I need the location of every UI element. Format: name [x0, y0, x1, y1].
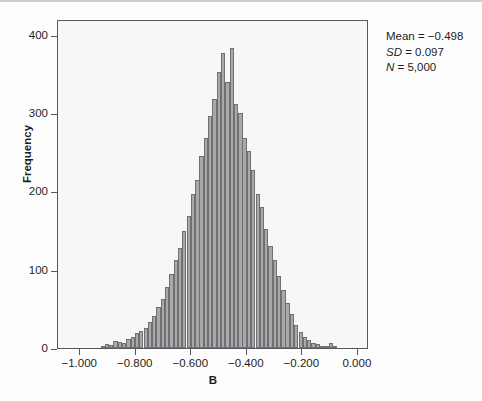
x-axis-tick-mark	[190, 349, 191, 355]
x-axis-tick-mark	[301, 349, 302, 355]
y-axis-tick-label: 100	[29, 265, 48, 276]
x-axis-tick-mark	[246, 349, 247, 355]
x-axis-tick-label: 0.000	[322, 357, 392, 369]
y-axis-tick-mark	[51, 36, 57, 37]
x-axis-tick-mark	[79, 349, 80, 355]
stat-mean-line: Mean = −0.498	[386, 29, 463, 45]
stat-sd-line: SD = 0.097	[386, 45, 463, 61]
x-axis-tick-mark	[135, 349, 136, 355]
plot-area	[57, 20, 368, 349]
y-axis-tick-mark	[51, 271, 57, 272]
top-divider-rule	[0, 0, 482, 2]
y-axis-tick-mark	[51, 349, 57, 350]
statistics-annotation: Mean = −0.498 SD = 0.097 N = 5,000	[386, 29, 463, 76]
stat-sd-value: = 0.097	[402, 46, 444, 58]
x-axis-tick-mark	[357, 349, 358, 355]
x-axis-title: B	[0, 374, 426, 386]
y-axis-tick-label: 400	[29, 30, 48, 41]
plot-inner	[58, 21, 367, 348]
stat-n-line: N = 5,000	[386, 60, 463, 76]
y-axis-tick-mark	[51, 192, 57, 193]
stat-n-value: = 5,000	[394, 61, 436, 73]
histogram-figure: 0100200300400 Frequency −1.000−0.800−0.6…	[0, 0, 482, 401]
histogram-bars	[58, 21, 367, 348]
stat-sd-symbol: SD	[386, 46, 402, 58]
y-axis-title: Frequency	[21, 109, 33, 199]
y-axis-labels: 0100200300400	[0, 0, 48, 401]
histogram-bar	[333, 346, 337, 348]
y-axis-tick-label: 0	[42, 343, 48, 354]
y-axis-tick-mark	[51, 114, 57, 115]
stat-mean-text: Mean = −0.498	[386, 30, 463, 42]
